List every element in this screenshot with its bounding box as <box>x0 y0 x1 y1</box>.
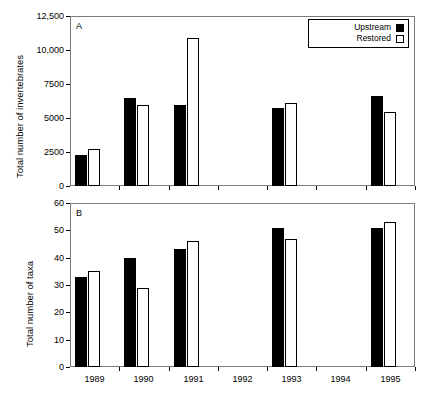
panel-b-x-tick <box>316 367 317 371</box>
panel-a-y-tick <box>66 186 70 187</box>
bar-restored-1991 <box>187 241 199 367</box>
panel-a-x-tick <box>316 186 317 190</box>
panel-b-y-tick <box>66 312 70 313</box>
panel-a-x-tick <box>415 186 416 190</box>
x-tick-label-1992: 1992 <box>218 375 267 384</box>
x-tick-label-1995: 1995 <box>366 375 415 384</box>
bar-restored-1995 <box>384 222 396 367</box>
panel-b-plot-area <box>70 203 415 367</box>
bar-upstream-1989 <box>75 277 87 367</box>
panel-b-y-tick-label: 60 <box>26 199 64 208</box>
bar-upstream-1993 <box>272 108 284 186</box>
panel-a-y-tick <box>66 84 70 85</box>
bar-restored-1993 <box>285 239 297 367</box>
panel-a-letter: A <box>76 22 82 31</box>
legend-item-restored: Restored <box>314 33 404 44</box>
bar-upstream-1995 <box>371 96 383 186</box>
bar-upstream-1991 <box>174 105 186 186</box>
panel-b-y-tick <box>66 203 70 204</box>
panel-a-y-tick-label: 7500 <box>26 80 64 89</box>
bar-restored-1993 <box>285 103 297 186</box>
bar-upstream-1995 <box>371 228 383 367</box>
panel-b-x-tick <box>267 367 268 371</box>
panel-b-y-axis-title: Total number of taxa <box>24 261 35 347</box>
panel-b-y-tick <box>66 340 70 341</box>
panel-b-y-tick <box>66 367 70 368</box>
panel-a-y-tick-label: 0 <box>26 182 64 191</box>
bar-restored-1989 <box>88 271 100 367</box>
bar-restored-1991 <box>187 38 199 186</box>
x-tick-label-1991: 1991 <box>169 375 218 384</box>
bar-restored-1995 <box>384 112 396 186</box>
panel-a-x-tick <box>119 186 120 190</box>
x-tick-label-1994: 1994 <box>316 375 365 384</box>
panel-b-y-tick <box>66 258 70 259</box>
panel-b-x-tick <box>119 367 120 371</box>
panel-b-y-tick <box>66 285 70 286</box>
figure-invertebrates-taxa-by-year: A Total number of invertebrates 02500500… <box>0 0 428 398</box>
legend-label-upstream: Upstream <box>354 23 391 32</box>
legend: Upstream Restored <box>308 19 409 48</box>
panel-a-y-tick-label: 12,500 <box>26 12 64 21</box>
panel-b-letter: B <box>76 209 82 218</box>
panel-a-y-tick-label: 10,000 <box>26 46 64 55</box>
panel-b-x-tick <box>169 367 170 371</box>
panel-b-y-tick-label: 0 <box>26 363 64 372</box>
legend-item-upstream: Upstream <box>314 22 404 33</box>
panel-b-y-tick-label: 30 <box>26 281 64 290</box>
panel-b-x-tick <box>415 367 416 371</box>
x-tick-label-1990: 1990 <box>119 375 168 384</box>
bar-upstream-1990 <box>124 98 136 186</box>
x-tick-label-1993: 1993 <box>267 375 316 384</box>
panel-a-y-tick <box>66 16 70 17</box>
bar-restored-1990 <box>137 288 149 367</box>
bar-restored-1990 <box>137 105 149 186</box>
panel-a-y-tick <box>66 118 70 119</box>
panel-b-y-tick-label: 20 <box>26 308 64 317</box>
legend-swatch-filled-icon <box>396 24 404 32</box>
panel-a-x-tick <box>169 186 170 190</box>
panel-a-x-tick <box>366 186 367 190</box>
bar-restored-1989 <box>88 149 100 186</box>
panel-b-y-tick-label: 50 <box>26 226 64 235</box>
bar-upstream-1991 <box>174 249 186 367</box>
panel-a-y-tick <box>66 50 70 51</box>
x-tick-label-1989: 1989 <box>70 375 119 384</box>
panel-a-y-tick-label: 2500 <box>26 148 64 157</box>
panel-a-y-tick <box>66 152 70 153</box>
legend-swatch-open-icon <box>396 35 404 43</box>
panel-b-y-tick-label: 40 <box>26 254 64 263</box>
panel-b-x-tick <box>366 367 367 371</box>
legend-label-restored: Restored <box>357 34 392 43</box>
panel-b-x-tick <box>218 367 219 371</box>
panel-b-y-tick <box>66 230 70 231</box>
bar-upstream-1990 <box>124 258 136 367</box>
panel-b-y-tick-label: 10 <box>26 336 64 345</box>
bar-upstream-1993 <box>272 228 284 367</box>
panel-a-x-tick <box>267 186 268 190</box>
panel-a-x-tick <box>218 186 219 190</box>
panel-a-y-tick-label: 5000 <box>26 114 64 123</box>
panel-a-y-axis-title: Total number of invertebrates <box>14 55 25 178</box>
bar-upstream-1989 <box>75 155 87 186</box>
